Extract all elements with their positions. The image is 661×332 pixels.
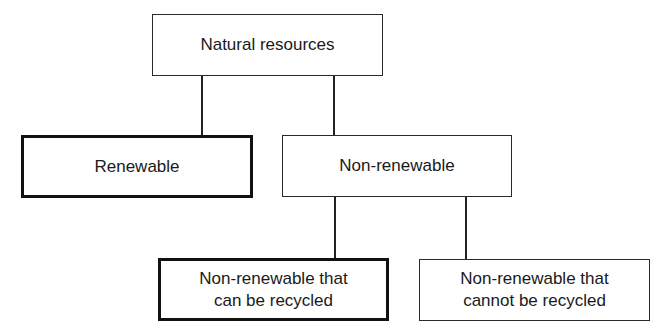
connector-non-renewable-to-recyclable <box>334 197 336 259</box>
node-non-renewable-non-recyclable: Non-renewable that cannot be recycled <box>419 259 650 321</box>
node-label: Renewable <box>94 156 179 178</box>
node-label-line-1: Non-renewable that <box>199 268 347 290</box>
connector-root-to-non-renewable <box>333 76 335 136</box>
connector-root-to-renewable <box>201 76 203 136</box>
node-label-line-2: cannot be recycled <box>463 290 606 312</box>
node-label-line-1: Non-renewable that <box>460 268 608 290</box>
natural-resources-diagram: Natural resources Renewable Non-renewabl… <box>0 0 661 332</box>
node-renewable: Renewable <box>21 135 253 198</box>
node-label-line-2: can be recycled <box>214 290 333 312</box>
connector-non-renewable-to-non-recyclable <box>465 197 467 259</box>
node-non-renewable-recyclable: Non-renewable that can be recycled <box>158 258 389 321</box>
node-label: Non-renewable <box>339 155 454 177</box>
node-natural-resources: Natural resources <box>152 14 383 76</box>
node-non-renewable: Non-renewable <box>282 135 512 197</box>
node-label: Natural resources <box>200 34 334 56</box>
